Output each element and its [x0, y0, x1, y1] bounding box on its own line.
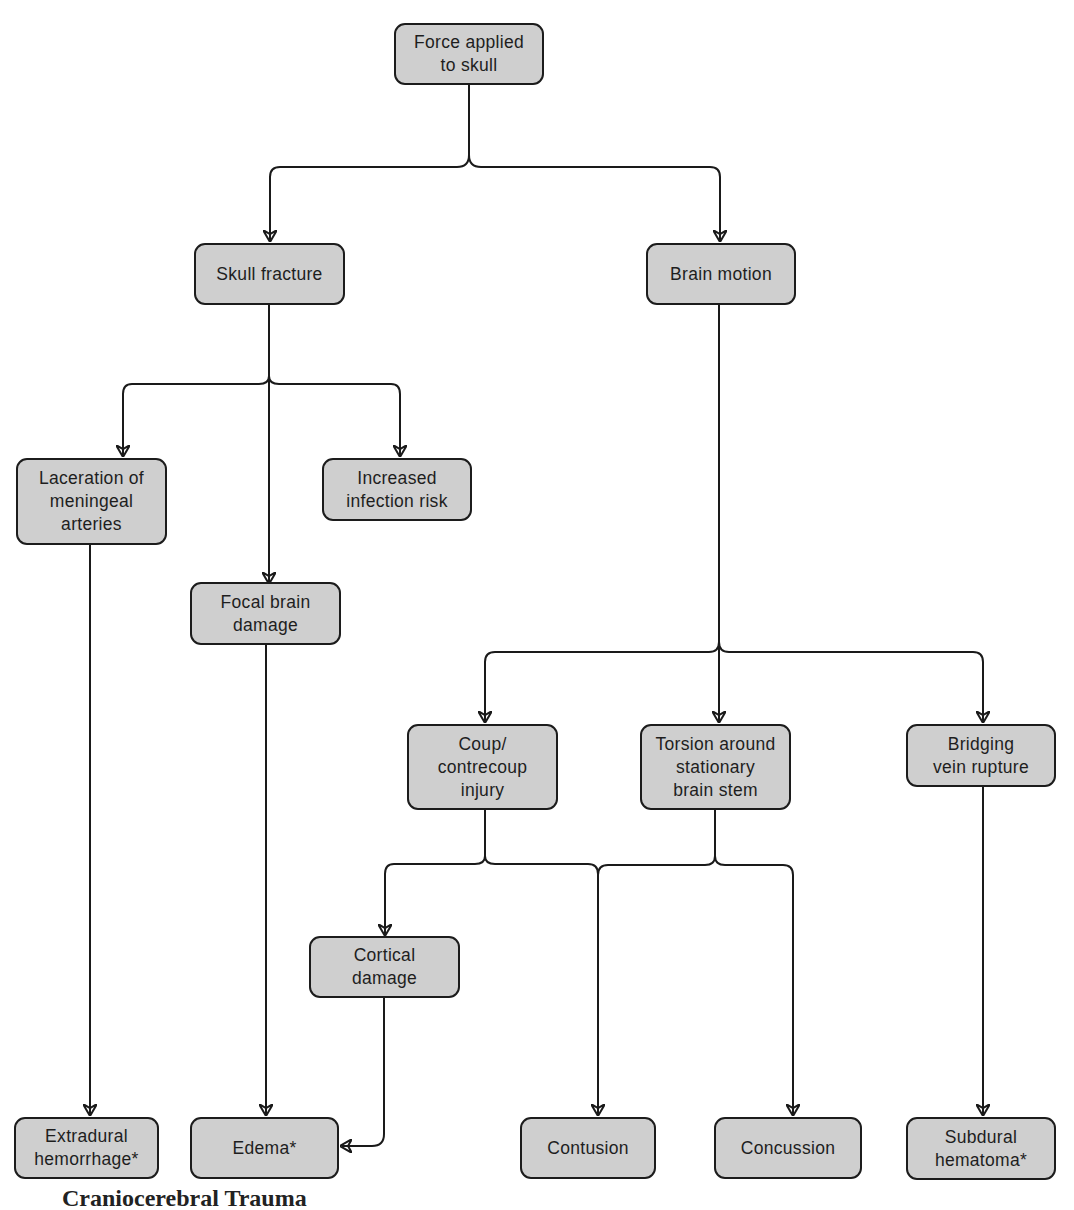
node-edema: Edema*: [190, 1117, 339, 1179]
edge-skull-fracture-to-laceration: [123, 376, 269, 455]
node-increased-infection-risk: Increased infection risk: [322, 458, 472, 521]
edge-force-to-skull-fracture: [270, 155, 469, 240]
edge-cortical-to-edema: [342, 998, 384, 1146]
node-contusion: Contusion: [520, 1117, 656, 1179]
node-bridging-vein-rupture: Bridging vein rupture: [906, 724, 1056, 787]
node-concussion: Concussion: [714, 1117, 862, 1179]
edge-torsion-to-contusion: [598, 856, 715, 875]
node-brain-motion: Brain motion: [646, 243, 796, 305]
edge-coup-to-cortical: [385, 856, 485, 934]
node-skull-fracture: Skull fracture: [194, 243, 345, 305]
edge-torsion-to-concussion: [715, 856, 793, 1114]
edge-brain-motion-to-coup: [485, 642, 719, 721]
node-coup-contrecoup-injury: Coup/ contrecoup injury: [407, 724, 558, 810]
node-force-applied-to-skull: Force applied to skull: [394, 23, 544, 85]
node-focal-brain-damage: Focal brain damage: [190, 582, 341, 645]
figure-caption: Craniocerebral Trauma: [62, 1186, 307, 1210]
edge-coup-to-contusion: [485, 856, 598, 1114]
edge-skull-fracture-to-infection: [269, 376, 400, 455]
node-extradural-hemorrhage: Extradural hemorrhage*: [14, 1117, 159, 1179]
node-laceration-of-meningeal-arteries: Laceration of meningeal arteries: [16, 458, 167, 545]
edge-force-to-brain-motion: [469, 155, 720, 240]
node-subdural-hematoma: Subdural hematoma*: [906, 1117, 1056, 1180]
edge-brain-motion-to-bridging: [719, 642, 983, 721]
node-cortical-damage: Cortical damage: [309, 936, 460, 998]
node-torsion-around-stationary-brain-stem: Torsion around stationary brain stem: [640, 724, 791, 810]
